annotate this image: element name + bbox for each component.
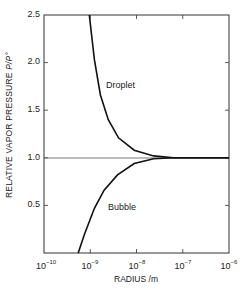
x-tick-label: 10−9 — [82, 259, 99, 271]
y-tick-label: 1.5 — [18, 105, 40, 114]
y-tick-label: 2.0 — [18, 57, 40, 66]
droplet-label: Droplet — [106, 81, 135, 90]
y-tick-label: 2.5 — [18, 10, 40, 19]
axis-ticks — [44, 15, 229, 253]
plot-area — [0, 0, 247, 294]
y-tick-label: 1.0 — [18, 153, 40, 162]
x-tick-label: 10−8 — [129, 259, 146, 271]
y-axis-label: RELATIVE VAPOR PRESSURE P/P° — [4, 35, 14, 215]
x-axis-label: RADIUS /m — [114, 274, 158, 284]
bubble-label: Bubble — [108, 203, 136, 212]
plot-frame — [44, 15, 229, 253]
chart-figure: 2.5 2.0 1.5 1.0 0.5 10−10 10−9 10−8 10−7… — [0, 0, 247, 294]
x-tick-label: 10−6 — [221, 259, 238, 271]
bubble-curve — [78, 158, 229, 253]
x-tick-label: 10−10 — [36, 259, 56, 271]
x-tick-label: 10−7 — [175, 259, 192, 271]
y-tick-label: 0.5 — [18, 200, 40, 209]
